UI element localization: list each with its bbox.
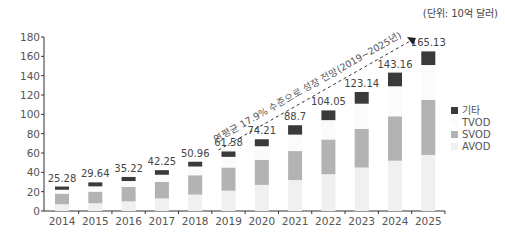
x-tick-label: 2024 (382, 215, 409, 227)
bar-segment-기타 (388, 73, 402, 87)
bar-segment-tvod (288, 135, 302, 151)
bar-segment-기타 (122, 177, 136, 181)
bar-segment-svod (321, 139, 335, 174)
y-tick-label: 160 (20, 50, 40, 62)
vod-market-chart: (단위: 10억 달러)0204060801001201401601802014… (0, 0, 505, 240)
x-tick-label: 2021 (282, 215, 309, 227)
bar-segment-tvod (155, 175, 169, 182)
bar-segment-avod (288, 180, 302, 211)
bar-segment-기타 (88, 182, 102, 186)
bar-segment-svod (288, 151, 302, 180)
total-label: 165.13 (411, 37, 446, 48)
bar-segment-avod (388, 161, 402, 211)
legend-label: TVOD (461, 117, 491, 128)
bar-segment-svod (188, 175, 202, 194)
bar-segment-avod (222, 191, 236, 211)
legend-label: 기타 (462, 105, 480, 116)
total-label: 123.14 (344, 78, 379, 89)
total-label: 88.7 (284, 111, 306, 122)
bar-segment-avod (321, 174, 335, 211)
bar-segment-기타 (55, 187, 69, 190)
bar-segment-tvod (122, 181, 136, 187)
bar-segment-avod (88, 203, 102, 211)
bar-segment-tvod (88, 186, 102, 191)
bar-segment-기타 (255, 139, 269, 146)
x-tick-label: 2023 (348, 215, 375, 227)
bar-segment-기타 (188, 162, 202, 167)
x-tick-label: 2017 (149, 215, 176, 227)
x-tick-label: 2018 (182, 215, 209, 227)
growth-arrow-line (219, 40, 413, 150)
legend-swatch-avod (451, 143, 458, 150)
y-tick-label: 40 (27, 166, 40, 178)
bar-segment-tvod (355, 104, 369, 129)
x-tick-label: 2019 (215, 215, 242, 227)
bar-segment-avod (55, 204, 69, 211)
bar-segment-avod (255, 185, 269, 211)
legend-swatch-기타 (451, 107, 458, 114)
y-tick-label: 140 (20, 70, 40, 82)
bar-segment-avod (421, 155, 435, 211)
legend-label: AVOD (462, 141, 491, 152)
total-label: 42.25 (148, 156, 177, 167)
y-tick-label: 180 (20, 31, 40, 43)
bar-segment-기타 (288, 125, 302, 134)
bar-segment-기타 (222, 151, 236, 156)
bar-segment-avod (122, 201, 136, 211)
bar-segment-tvod (55, 190, 69, 194)
x-tick-label: 2015 (82, 215, 109, 227)
total-label: 50.96 (181, 148, 210, 159)
legend-label: SVOD (462, 129, 491, 140)
bar-segment-기타 (155, 170, 169, 175)
bar-segment-기타 (321, 110, 335, 120)
x-tick-label: 2022 (315, 215, 342, 227)
bar-segment-기타 (421, 51, 435, 65)
bar-segment-avod (155, 198, 169, 211)
bar-segment-tvod (421, 65, 435, 100)
bar-segment-tvod (321, 120, 335, 139)
legend-swatch-svod (451, 131, 458, 138)
legend-swatch-tvod (451, 119, 458, 126)
total-label: 35.22 (114, 163, 143, 174)
bar-segment-svod (255, 160, 269, 185)
bar-segment-svod (55, 194, 69, 205)
total-label: 143.16 (378, 59, 413, 70)
bar-segment-svod (88, 192, 102, 204)
y-tick-label: 80 (27, 128, 40, 140)
total-label: 104.05 (311, 96, 346, 107)
y-tick-label: 100 (20, 108, 40, 120)
bar-segment-svod (388, 116, 402, 160)
x-tick-label: 2014 (49, 215, 76, 227)
bar-segment-svod (155, 182, 169, 198)
unit-label: (단위: 10억 달러) (423, 7, 498, 19)
bar-segment-svod (421, 100, 435, 155)
bar-segment-tvod (255, 146, 269, 160)
x-tick-label: 2025 (415, 215, 442, 227)
x-tick-label: 2016 (115, 215, 142, 227)
total-label: 29.64 (81, 168, 110, 179)
y-tick-label: 20 (27, 186, 40, 198)
bar-segment-svod (355, 129, 369, 168)
bar-segment-avod (355, 168, 369, 212)
bar-segment-tvod (222, 157, 236, 168)
bar-segment-svod (122, 187, 136, 202)
bar-segment-tvod (388, 86, 402, 116)
bar-segment-svod (222, 168, 236, 191)
y-tick-label: 0 (33, 205, 40, 217)
bar-segment-기타 (355, 92, 369, 104)
total-label: 25.28 (48, 173, 77, 184)
y-tick-label: 60 (27, 147, 40, 159)
x-tick-label: 2020 (248, 215, 275, 227)
chart-canvas: (단위: 10억 달러)0204060801001201401601802014… (0, 0, 505, 240)
bar-segment-tvod (188, 167, 202, 176)
y-tick-label: 120 (20, 89, 40, 101)
bar-segment-avod (188, 195, 202, 211)
